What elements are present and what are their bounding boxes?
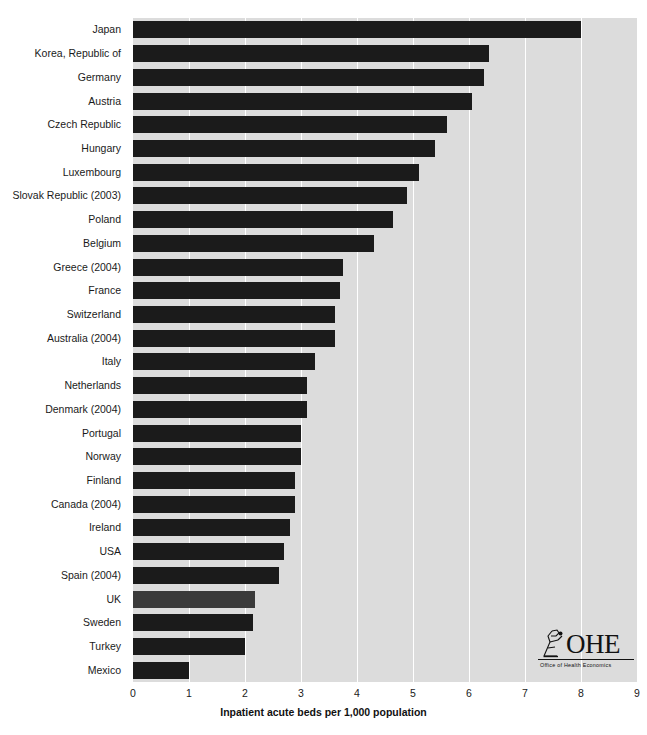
bar [133, 330, 335, 347]
bar-row [133, 591, 637, 608]
category-label: Switzerland [67, 306, 121, 323]
bar [133, 45, 489, 62]
bar-row [133, 425, 637, 442]
category-label: Korea, Republic of [35, 45, 121, 62]
category-label: Denmark (2004) [45, 401, 121, 418]
bar-row [133, 306, 637, 323]
bar-row [133, 282, 637, 299]
category-label: Italy [102, 353, 121, 370]
bar-row [133, 187, 637, 204]
category-label: Belgium [83, 235, 121, 252]
ohe-rule [538, 659, 634, 660]
x-tick-label: 0 [130, 687, 136, 699]
x-tick-label: 9 [634, 687, 640, 699]
bar-row [133, 496, 637, 513]
bar [133, 377, 307, 394]
bar [133, 116, 447, 133]
ohe-logo-top: OHE [538, 626, 620, 658]
ohe-logo: OHE Office of Health Economics [538, 626, 638, 672]
bar [133, 638, 245, 655]
category-label: USA [99, 543, 121, 560]
category-label: France [88, 282, 121, 299]
x-tick-label: 4 [354, 687, 360, 699]
category-label: Netherlands [64, 377, 121, 394]
bar-row [133, 164, 637, 181]
bar [133, 259, 343, 276]
x-tick-label: 7 [522, 687, 528, 699]
bar [133, 164, 419, 181]
category-label: Czech Republic [47, 116, 121, 133]
category-label: Hungary [81, 140, 121, 157]
bar [133, 472, 295, 489]
bar [133, 496, 295, 513]
bar-chart: JapanKorea, Republic ofGermanyAustriaCze… [0, 0, 647, 735]
bar-row [133, 116, 637, 133]
category-label: Spain (2004) [61, 567, 121, 584]
category-label: Japan [92, 21, 121, 38]
bars-layer [133, 18, 637, 682]
category-label: Sweden [83, 614, 121, 631]
x-axis: 0123456789 [133, 682, 637, 704]
x-tick-label: 8 [578, 687, 584, 699]
ohe-subtitle: Office of Health Economics [540, 662, 611, 668]
category-label: Australia (2004) [47, 330, 121, 347]
bar [133, 401, 307, 418]
category-label: Turkey [89, 638, 121, 655]
bar [133, 662, 189, 679]
x-tick-label: 2 [242, 687, 248, 699]
bar [133, 140, 435, 157]
x-tick-label: 3 [298, 687, 304, 699]
bar [133, 93, 472, 110]
bar [133, 69, 484, 86]
category-label: Luxembourg [63, 164, 121, 181]
bar-row [133, 259, 637, 276]
category-label: Norway [85, 448, 121, 465]
category-label: Ireland [89, 519, 121, 536]
bar-row [133, 472, 637, 489]
bar [133, 425, 301, 442]
bar [133, 519, 290, 536]
x-tick-label: 1 [186, 687, 192, 699]
bar-row [133, 543, 637, 560]
category-label: Slovak Republic (2003) [12, 187, 121, 204]
bar-row [133, 69, 637, 86]
bar-row [133, 93, 637, 110]
ohe-emblem-icon [538, 627, 568, 658]
bar [133, 306, 335, 323]
category-label: Poland [88, 211, 121, 228]
category-label: Germany [78, 69, 121, 86]
category-label: Greece (2004) [53, 259, 121, 276]
bar [133, 567, 279, 584]
category-label: Austria [88, 93, 121, 110]
category-label: Mexico [88, 662, 121, 679]
category-labels: JapanKorea, Republic ofGermanyAustriaCze… [0, 18, 128, 682]
category-label: UK [106, 591, 121, 608]
bar-row [133, 21, 637, 38]
bar [133, 235, 374, 252]
bar-row [133, 401, 637, 418]
bar [133, 282, 340, 299]
ohe-letters: OHE [566, 631, 620, 658]
bar [133, 187, 407, 204]
bar [133, 543, 284, 560]
category-label: Portugal [82, 425, 121, 442]
category-label: Finland [87, 472, 121, 489]
bar [133, 614, 253, 631]
bar-row [133, 211, 637, 228]
bar-row [133, 448, 637, 465]
gridline-9 [637, 18, 638, 682]
x-tick-label: 6 [466, 687, 472, 699]
bar-row [133, 235, 637, 252]
bar-row [133, 45, 637, 62]
x-tick-label: 5 [410, 687, 416, 699]
bar-row [133, 353, 637, 370]
bar-row [133, 330, 637, 347]
bar [133, 21, 581, 38]
bar-row [133, 140, 637, 157]
bar-row [133, 519, 637, 536]
bar [133, 353, 315, 370]
bar [133, 211, 393, 228]
bar-row [133, 567, 637, 584]
category-label: Canada (2004) [51, 496, 121, 513]
x-axis-title: Inpatient acute beds per 1,000 populatio… [0, 706, 647, 718]
